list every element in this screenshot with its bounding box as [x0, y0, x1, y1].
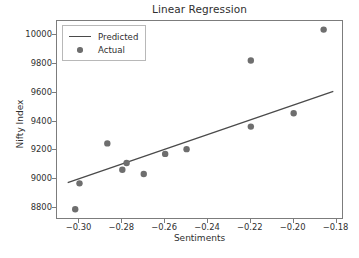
chart-legend[interactable]: Predicted Actual — [62, 25, 146, 61]
y-tick-mark — [52, 121, 56, 122]
chart-title: Linear Regression — [56, 3, 343, 15]
y-axis-tick-labels: 88009000920094009600980010000 — [8, 0, 52, 258]
dot-swatch-icon — [68, 44, 92, 56]
linear-regression-figure: Linear Regression Nifty Index 8800900092… — [0, 0, 359, 258]
x-tick-mark — [207, 219, 208, 223]
data-point — [162, 151, 168, 157]
data-point — [141, 171, 147, 177]
data-point — [290, 110, 296, 116]
data-point — [123, 160, 129, 166]
legend-label-predicted: Predicted — [98, 32, 138, 42]
x-tick-mark — [250, 219, 251, 223]
predicted-regression-line — [68, 91, 334, 182]
y-tick-mark — [52, 178, 56, 179]
y-tick-label: 9200 — [12, 144, 52, 154]
x-tick-label: −0.26 — [142, 222, 186, 232]
y-tick-mark — [52, 149, 56, 150]
data-point — [248, 123, 254, 129]
x-tick-mark — [78, 219, 79, 223]
y-tick-mark — [52, 92, 56, 93]
legend-label-actual: Actual — [98, 45, 125, 55]
data-point — [104, 140, 110, 146]
data-point — [72, 206, 78, 212]
data-point — [119, 167, 125, 173]
data-point — [320, 26, 326, 32]
x-tick-mark — [336, 219, 337, 223]
y-tick-label: 9400 — [12, 116, 52, 126]
x-tick-label: −0.24 — [185, 222, 229, 232]
line-swatch-icon — [68, 31, 92, 43]
y-tick-label: 9600 — [12, 87, 52, 97]
legend-item-actual[interactable]: Actual — [68, 43, 138, 56]
y-tick-label: 8800 — [12, 202, 52, 212]
x-axis-label: Sentiments — [56, 233, 343, 243]
data-point — [183, 146, 189, 152]
x-tick-mark — [293, 219, 294, 223]
y-tick-mark — [52, 207, 56, 208]
y-tick-label: 10000 — [12, 29, 52, 39]
x-tick-label: −0.18 — [314, 222, 358, 232]
x-tick-mark — [121, 219, 122, 223]
x-tick-label: −0.30 — [56, 222, 100, 232]
regression-line — [68, 91, 334, 182]
y-tick-mark — [52, 34, 56, 35]
x-tick-mark — [164, 219, 165, 223]
data-point — [76, 180, 82, 186]
y-tick-label: 9800 — [12, 58, 52, 68]
y-tick-mark — [52, 63, 56, 64]
x-tick-label: −0.20 — [271, 222, 315, 232]
legend-item-predicted[interactable]: Predicted — [68, 30, 138, 43]
x-tick-label: −0.28 — [99, 222, 143, 232]
y-tick-label: 9000 — [12, 173, 52, 183]
x-tick-label: −0.22 — [228, 222, 272, 232]
data-point — [248, 57, 254, 63]
